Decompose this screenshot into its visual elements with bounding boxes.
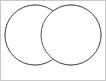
venn-circle-right-outline	[41, 5, 101, 65]
venn-diagram-svg: Venn diagram with shaded intersection	[0, 0, 106, 81]
venn-diagram-figure: Venn diagram with shaded intersection	[0, 0, 106, 81]
venn-circle-outlines-group	[5, 5, 101, 65]
